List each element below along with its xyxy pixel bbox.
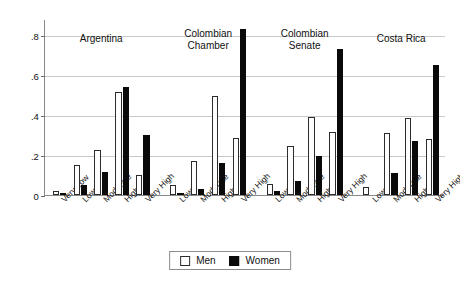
bar-men	[136, 175, 142, 195]
bar-category: Very High	[229, 19, 250, 195]
bar-men	[191, 161, 197, 195]
bar-women	[143, 135, 149, 195]
bar-men	[74, 165, 80, 195]
bar-men	[212, 96, 218, 195]
bar-category: Very High	[422, 19, 443, 195]
x-axis-tick-label: Very High	[433, 197, 440, 204]
bar-women	[337, 49, 343, 195]
bar-category: Low	[70, 19, 91, 195]
x-axis-tick-label: Moderate	[101, 197, 108, 204]
y-axis-tick-label: .6	[31, 71, 39, 82]
bar-men	[308, 117, 314, 195]
x-axis-tick-label: High	[412, 197, 419, 204]
x-axis-tick-label: Very High	[239, 197, 246, 204]
grouped-bar-chart: 0.2.4.6.8ArgentinaVery LowLowModerateHig…	[0, 0, 460, 284]
bar-category: Very Low	[49, 19, 70, 195]
chart-legend: Men Women	[169, 251, 291, 270]
y-axis-tick-label: .2	[31, 151, 39, 162]
bar-women	[412, 141, 418, 195]
bar-men	[53, 191, 59, 195]
legend-swatch-men-icon	[180, 256, 190, 266]
bar-men	[426, 139, 432, 195]
y-axis-tick-mark	[41, 196, 45, 197]
bar-category: High	[401, 19, 422, 195]
y-axis-tick-label: 0	[34, 191, 39, 202]
bar-category: Moderate	[284, 19, 305, 195]
bar-group: ArgentinaVery LowLowModerateHighVery Hig…	[49, 19, 153, 195]
bar-men	[384, 133, 390, 195]
bar-category: Low	[166, 19, 187, 195]
bar-category: High	[305, 19, 326, 195]
bar-category: Low	[263, 19, 284, 195]
bar-category: High	[112, 19, 133, 195]
bar-women	[433, 65, 439, 195]
plot-area: 0.2.4.6.8ArgentinaVery LowLowModerateHig…	[44, 20, 444, 196]
x-axis-tick-label: Low	[177, 197, 184, 204]
bar-category: High	[208, 19, 229, 195]
y-axis-tick-mark	[41, 76, 45, 77]
bar-category: Moderate	[380, 19, 401, 195]
x-axis-tick-label: Low	[273, 197, 280, 204]
bar-men	[267, 184, 273, 195]
bar-men	[94, 150, 100, 195]
legend-label-men: Men	[196, 255, 215, 266]
legend-label-women: Women	[246, 255, 280, 266]
y-axis-tick-mark	[41, 36, 45, 37]
bar-men	[329, 132, 335, 195]
bar-category: Low	[359, 19, 380, 195]
bar-men	[287, 146, 293, 195]
legend-swatch-women-icon	[230, 256, 240, 266]
x-axis-tick-label: High	[219, 197, 226, 204]
x-axis-tick-label: Very High	[143, 197, 150, 204]
bar-category: Moderate	[187, 19, 208, 195]
bar-category: Very High	[326, 19, 347, 195]
x-axis-tick-label: Very High	[336, 197, 343, 204]
y-axis-tick-mark	[41, 156, 45, 157]
bar-men	[363, 187, 369, 195]
y-axis-tick-label: .4	[31, 111, 39, 122]
x-axis-tick-label: Low	[370, 197, 377, 204]
x-axis-tick-label: Low	[80, 197, 87, 204]
bar-men	[233, 138, 239, 195]
bar-women	[123, 87, 129, 195]
bar-men	[405, 118, 411, 195]
bar-group: ColombianChamberLowModerateHighVery High	[166, 19, 250, 195]
x-axis-tick-label: Moderate	[198, 197, 205, 204]
y-axis-tick-label: .8	[31, 31, 39, 42]
bar-women	[240, 29, 246, 195]
legend-item-men: Men	[180, 255, 215, 266]
x-axis-tick-label: Moderate	[391, 197, 398, 204]
bar-category: Moderate	[91, 19, 112, 195]
x-axis-tick-label: High	[315, 197, 322, 204]
bar-men	[115, 92, 121, 195]
y-axis-tick-mark	[41, 116, 45, 117]
x-axis-tick-label: High	[122, 197, 129, 204]
bar-men	[170, 185, 176, 195]
legend-item-women: Women	[230, 255, 280, 266]
bar-category: Very High	[133, 19, 154, 195]
x-axis-tick-label: Moderate	[294, 197, 301, 204]
bar-group: Costa RicaLowModerateHighVery High	[359, 19, 443, 195]
x-axis-tick-label: Very Low	[59, 197, 66, 204]
bar-group: ColombianSenateLowModerateHighVery High	[263, 19, 347, 195]
